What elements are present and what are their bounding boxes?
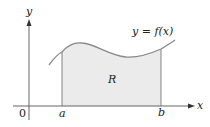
region-label: R — [108, 74, 116, 85]
y-axis-arrowhead — [27, 19, 32, 26]
tick-label-a: a — [59, 108, 66, 119]
curve-label: y = f(x) — [132, 26, 173, 37]
tick-label-b: b — [158, 107, 165, 118]
origin-label: 0 — [19, 108, 26, 119]
x-axis-arrowhead — [188, 104, 195, 109]
area-under-curve-diagram: y x 0 a b R y = f(x) — [0, 0, 210, 127]
x-axis-label: x — [197, 100, 203, 111]
y-axis-label: y — [26, 6, 32, 17]
diagram-canvas — [0, 0, 210, 127]
